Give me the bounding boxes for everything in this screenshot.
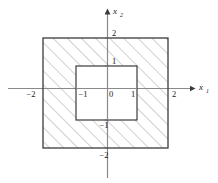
tick-label-y-neg2: −2 xyxy=(99,150,108,160)
x2-axis-label-group: x 2 xyxy=(112,6,123,18)
tick-label-y-pos1: 1 xyxy=(112,56,116,66)
tick-label-x-pos2: 2 xyxy=(172,89,176,99)
figure-container: x 1 x 2 −2 −1 0 1 2 1 2 −1 −2 xyxy=(0,0,218,183)
tick-label-x-neg1: −1 xyxy=(78,89,87,99)
x1-axis-label-group: x 1 xyxy=(198,82,209,94)
tick-label-y-pos2: 2 xyxy=(112,28,116,38)
tick-label-x-pos1: 1 xyxy=(131,89,135,99)
x2-axis-label: x xyxy=(112,6,117,16)
region-diagram-svg: x 1 x 2 −2 −1 0 1 2 1 2 −1 −2 xyxy=(0,0,218,183)
x1-axis-label-subscript: 1 xyxy=(206,88,209,94)
tick-label-y-neg1: −1 xyxy=(99,120,108,130)
tick-label-origin: 0 xyxy=(109,89,113,99)
tick-label-x-neg2: −2 xyxy=(26,89,35,99)
x1-axis-label: x xyxy=(198,82,203,92)
x2-axis-label-subscript: 2 xyxy=(120,12,123,18)
